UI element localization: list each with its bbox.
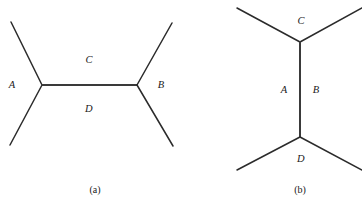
panel-b-label-d: D — [297, 154, 305, 165]
panel-b-upper-left-leg — [237, 8, 300, 42]
panel-a-label-b: B — [158, 80, 165, 91]
panel-a-label-c: C — [85, 55, 92, 66]
panel-a-lower-right-leg — [137, 85, 173, 146]
panel-a-upper-right-leg — [137, 23, 172, 85]
panel-a-upper-left-leg — [11, 22, 42, 85]
panel-a-caption: (a) — [89, 185, 100, 195]
panel-b-label-c: C — [297, 16, 304, 27]
panel-a-lower-left-leg — [10, 85, 42, 145]
panel-b-edge-group — [237, 8, 362, 170]
panel-b-label-a: A — [281, 85, 288, 96]
panel-b-upper-right-leg — [300, 8, 362, 42]
panel-b-label-b: B — [313, 85, 320, 96]
panel-b-caption: (b) — [294, 185, 306, 195]
panel-b-lower-right-leg — [300, 137, 362, 170]
panel-a-label-a: A — [9, 80, 16, 91]
panel-a-label-d: D — [85, 104, 93, 115]
panel-a-edge-group — [10, 22, 173, 146]
diagram-canvas — [0, 0, 362, 206]
figure-container: ABCD CABD (a)(b) — [0, 0, 362, 206]
clipped-body-text — [0, 199, 362, 206]
panel-b-lower-left-leg — [237, 137, 300, 170]
clipped-body-text-line — [6, 199, 8, 204]
